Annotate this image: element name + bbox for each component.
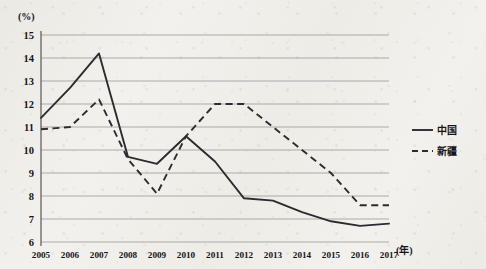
y-axis-unit-label: (%) xyxy=(18,11,35,23)
x-axis-tick-label: 2005 xyxy=(32,250,51,260)
y-axis-tick-label: 13 xyxy=(24,76,35,87)
x-axis-tick-label: 2014 xyxy=(293,250,312,260)
x-axis-tick-label: 2010 xyxy=(177,250,196,260)
y-axis-tick-label: 12 xyxy=(24,99,35,110)
x-axis-tick-label: 2012 xyxy=(235,250,254,260)
y-axis-tick-labels: 6789101112131415 xyxy=(24,30,35,248)
y-axis-tick-label: 8 xyxy=(29,191,34,202)
x-axis-tick-label: 2006 xyxy=(61,250,80,260)
y-axis-tick-label: 14 xyxy=(24,53,35,64)
y-axis-tick-label: 7 xyxy=(29,214,34,225)
line-chart: 6789101112131415 20052006200720082009201… xyxy=(0,0,486,269)
legend-label: 新疆 xyxy=(437,145,457,157)
y-axis-tick-label: 9 xyxy=(29,168,34,179)
y-axis-tick-label: 15 xyxy=(24,30,35,41)
x-axis-tick-label: 2009 xyxy=(148,250,167,260)
y-axis-tick-label: 11 xyxy=(24,122,34,133)
x-axis-tick-label: 2016 xyxy=(351,250,370,260)
series-line-xinjiang xyxy=(41,99,389,205)
series-line-china xyxy=(41,53,389,226)
gridlines-group xyxy=(41,35,389,242)
x-axis-tick-label: 2011 xyxy=(206,250,224,260)
x-axis-tick-label: 2008 xyxy=(119,250,138,260)
y-axis-tick-label: 6 xyxy=(29,237,34,248)
chart-legend: 中国新疆 xyxy=(412,124,457,157)
y-axis-tick-label: 10 xyxy=(24,145,35,156)
legend-label: 中国 xyxy=(437,124,457,136)
x-axis-tick-labels: 2005200620072008200920102011201220132014… xyxy=(32,250,399,260)
chart-canvas: 6789101112131415 20052006200720082009201… xyxy=(0,0,486,269)
x-axis-unit-label: (年) xyxy=(396,244,413,257)
x-axis-tick-label: 2007 xyxy=(90,250,109,260)
x-axis-tick-label: 2013 xyxy=(264,250,283,260)
x-axis-tick-label: 2015 xyxy=(322,250,341,260)
